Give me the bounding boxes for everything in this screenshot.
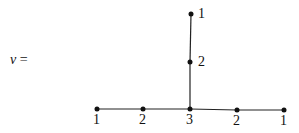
node <box>188 60 193 65</box>
edge <box>190 109 237 110</box>
node <box>95 107 100 112</box>
node-label: 2 <box>233 113 240 129</box>
node-label: 1 <box>198 6 205 22</box>
node <box>188 107 193 112</box>
dynkin-diagram <box>0 0 299 133</box>
node-label: 3 <box>186 112 193 128</box>
node-label: 1 <box>93 112 100 128</box>
node <box>282 108 287 113</box>
node <box>141 107 146 112</box>
node <box>235 108 240 113</box>
node <box>189 12 194 17</box>
node-label: 1 <box>280 113 287 129</box>
node-label: 2 <box>198 54 205 70</box>
node-label: 2 <box>139 112 146 128</box>
edge <box>190 14 191 62</box>
